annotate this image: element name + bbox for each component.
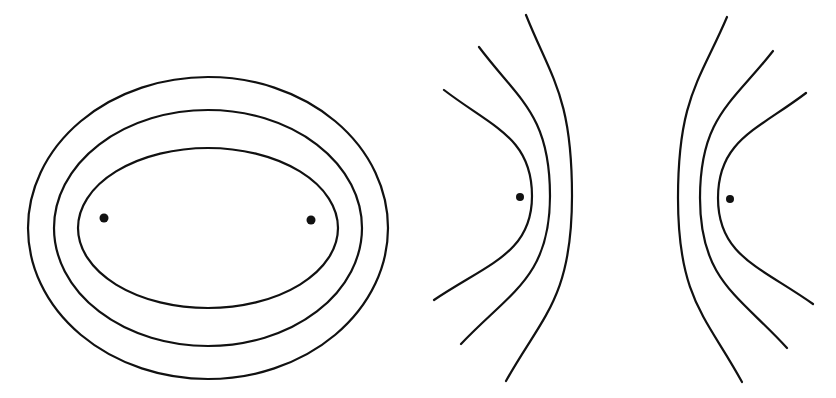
ellipse-outer <box>28 77 388 379</box>
hyperbola-focus-left-dot <box>516 193 524 201</box>
hyperbola-focus-right-dot <box>726 195 734 203</box>
ellipse-middle <box>54 110 362 346</box>
ellipse-inner <box>78 148 338 308</box>
ellipse-focus-left-dot <box>100 214 109 223</box>
hyperbola-panel <box>434 15 813 382</box>
ellipse-focus-right-dot <box>307 216 316 225</box>
confocal-conics-figure <box>0 0 836 398</box>
ellipse-panel <box>28 77 388 379</box>
hyperbola-left-outer-branch <box>506 15 572 381</box>
hyperbola-left-middle-branch <box>461 47 550 344</box>
hyperbola-right-middle-branch <box>700 51 787 348</box>
